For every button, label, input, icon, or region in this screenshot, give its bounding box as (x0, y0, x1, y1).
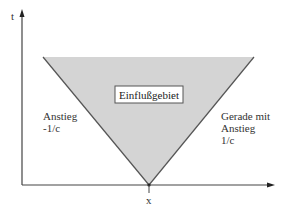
x-axis-arrow-icon (267, 183, 275, 188)
right-edge-label-line-2: Anstieg (221, 122, 256, 134)
region-label: Einflußgebiet (119, 89, 179, 101)
influence-region-diagram: t x Einflußgebiet Anstieg -1/c Gerade mi… (0, 0, 286, 216)
t-axis-label: t (11, 10, 14, 22)
left-edge-label-line-1: Anstieg (43, 110, 78, 122)
right-edge-label-line-3: 1/c (221, 134, 235, 146)
right-edge-label-line-1: Gerade mit (221, 110, 270, 122)
left-edge-label-line-2: -1/c (43, 122, 60, 134)
x-axis-label: x (146, 194, 152, 206)
t-axis-arrow-icon (20, 9, 25, 17)
